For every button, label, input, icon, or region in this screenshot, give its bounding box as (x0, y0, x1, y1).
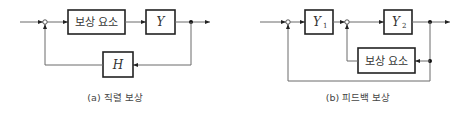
arrow-icon (281, 20, 286, 24)
block-y2-subscript: 2 (402, 22, 406, 30)
feedback-label: H (112, 58, 124, 72)
compensator-label: 보상 요소 (75, 16, 119, 29)
plant-label: Y (157, 15, 166, 29)
output-arrow-icon (445, 20, 450, 24)
arrow-icon (286, 24, 290, 29)
diagram-feedback-compensation: Y 1 Y 2 보상 요소 (b) 피드백 보상 (260, 10, 450, 103)
caption-b: (b) 피드백 보상 (326, 92, 390, 103)
arrow-icon (38, 20, 43, 24)
feedback-compensator-label: 보상 요소 (365, 55, 409, 68)
arrow-icon (340, 20, 345, 24)
diagram-series-compensation: 보상 요소 Y H (a) 직렬 보상 (20, 10, 210, 103)
summing-junction (43, 20, 47, 24)
arrow-icon (345, 24, 349, 29)
output-arrow-icon (205, 20, 210, 24)
arrow-icon (43, 24, 47, 29)
block-y1-subscript: 1 (323, 22, 327, 30)
caption-a: (a) 직렬 보상 (87, 92, 142, 103)
block-diagrams: 보상 요소 Y H (a) 직렬 보상 Y 1 Y 2 (0, 0, 461, 115)
summing-junction-1 (286, 20, 290, 24)
block-y1-label: Y (313, 15, 322, 29)
summing-junction-2 (345, 20, 349, 24)
block-y2-label: Y (392, 15, 401, 29)
